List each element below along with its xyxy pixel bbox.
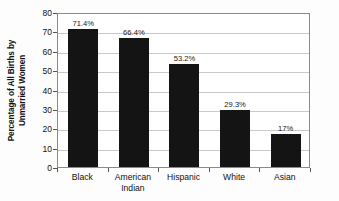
x-axis-category-label: Hispanic: [167, 172, 200, 183]
bar-chart: Percentage of All Births by Unmarried Wo…: [0, 0, 339, 201]
bar-group[interactable]: 66.4%: [109, 14, 160, 167]
x-axis-category-label-line: Asian: [274, 172, 296, 182]
x-axis-category-label: White: [223, 172, 245, 183]
plot-area: 71.4%66.4%53.2%29.3%17%: [57, 13, 310, 168]
bars-layer: 71.4%66.4%53.2%29.3%17%: [58, 14, 309, 167]
y-axis-tick-labels: 01020304050607080: [34, 13, 52, 168]
x-axis-category-label: Black: [72, 172, 93, 183]
x-axis-category-label-line: American: [115, 172, 151, 182]
bar[interactable]: [271, 134, 301, 167]
y-axis-tick-label: 70: [34, 28, 52, 37]
y-axis-tick-label: 60: [34, 47, 52, 56]
x-axis-category-label-line: Black: [72, 172, 93, 182]
x-axis-category-label: Asian: [274, 172, 296, 183]
bar[interactable]: [220, 110, 250, 167]
x-axis-category-labels: BlackAmericanIndianHispanicWhiteAsian: [57, 172, 310, 201]
x-axis-category-label-line: White: [223, 172, 245, 182]
bar[interactable]: [169, 64, 199, 167]
y-axis-tick-label: 50: [34, 67, 52, 76]
y-axis-title-line-2: Unmarried Women: [18, 39, 29, 141]
x-axis-tick-mark: [310, 168, 311, 172]
bar-group[interactable]: 29.3%: [210, 14, 261, 167]
y-axis-title: Percentage of All Births by Unmarried Wo…: [0, 0, 36, 180]
x-axis-category-label: AmericanIndian: [115, 172, 151, 193]
bar-group[interactable]: 17%: [260, 14, 311, 167]
bar-value-label: 71.4%: [73, 20, 95, 28]
bar[interactable]: [119, 38, 149, 167]
bar-group[interactable]: 53.2%: [159, 14, 210, 167]
y-axis-tick-label: 0: [34, 164, 52, 173]
bar-value-label: 29.3%: [224, 101, 246, 109]
y-axis-tick-label: 40: [34, 86, 52, 95]
y-axis-tick-label: 80: [34, 9, 52, 18]
bar-value-label: 66.4%: [123, 29, 145, 37]
y-axis-tick-label: 10: [34, 144, 52, 153]
y-axis-tick-label: 30: [34, 106, 52, 115]
y-axis-tick-label: 20: [34, 125, 52, 134]
bar-group[interactable]: 71.4%: [58, 14, 109, 167]
x-axis-category-label-line: Hispanic: [167, 172, 200, 182]
bar[interactable]: [68, 29, 98, 167]
y-axis-title-line-1: Percentage of All Births by: [8, 39, 19, 141]
x-axis-category-label-line: Indian: [115, 183, 151, 194]
bar-value-label: 17%: [278, 125, 293, 133]
bar-value-label: 53.2%: [174, 55, 196, 63]
